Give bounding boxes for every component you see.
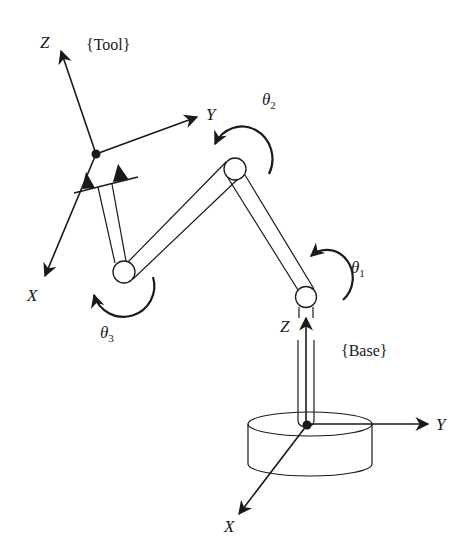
joint-3-circle — [113, 261, 135, 283]
link-2 — [228, 175, 314, 290]
robot-arm-diagram: Z {Tool} Y X θ2 θ1 θ3 Z {Base} Y X — [0, 0, 473, 559]
theta-1-rotation-arrow — [311, 250, 353, 300]
base-y-label: Y — [436, 415, 447, 434]
base-cylinder — [248, 412, 372, 476]
base-x-label: X — [223, 517, 235, 536]
base-frame-label: {Base} — [341, 342, 387, 359]
gripper — [74, 164, 138, 193]
tool-x-label: X — [26, 286, 38, 305]
base-origin-dot — [303, 421, 312, 430]
theta-1-label: θ1 — [351, 258, 365, 279]
joint-2-circle — [224, 158, 246, 180]
base-z-label: Z — [280, 317, 290, 336]
tool-frame-label: {Tool} — [86, 36, 130, 53]
link-3 — [128, 162, 238, 279]
tool-y-axis — [96, 117, 197, 154]
tool-origin-dot — [92, 150, 101, 159]
tool-y-label: Y — [206, 105, 217, 124]
joint-1-circle — [296, 287, 317, 308]
tool-z-label: Z — [40, 33, 50, 52]
theta-2-label: θ2 — [262, 90, 276, 111]
tool-x-axis — [45, 154, 96, 276]
link-4 — [98, 184, 126, 263]
base-x-axis — [239, 425, 307, 514]
theta-3-label: θ3 — [100, 323, 114, 344]
tool-z-axis — [61, 51, 96, 154]
